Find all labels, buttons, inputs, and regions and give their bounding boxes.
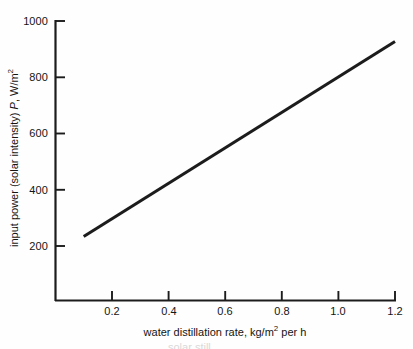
cropped-caption-text: solar still (168, 341, 406, 349)
x-tick-label-0-6: 0.6 (217, 305, 233, 317)
y-tick-label-1000: 1000 (0, 15, 48, 27)
y-axis-title-symbol: P (8, 102, 20, 109)
y-axis-title: input power (solar intensity) P, W/m2 (8, 69, 20, 247)
y-tick-marks (56, 21, 65, 246)
x-tick-label-1-2: 1.2 (387, 305, 403, 317)
x-axis-title-suffix: per h (278, 326, 306, 338)
y-axis-title-prefix: input power (solar intensity) (8, 109, 20, 247)
x-tick-label-0-2: 0.2 (104, 305, 120, 317)
figure-container: 1000 800 600 400 200 0.2 0.4 0.6 0.8 1.0… (0, 0, 413, 349)
y-axis-title-suffix: , W/m (8, 73, 20, 102)
data-series-line (84, 42, 395, 237)
x-tick-label-1-0: 1.0 (330, 305, 346, 317)
x-tick-label-0-4: 0.4 (161, 305, 177, 317)
chart-canvas (0, 0, 413, 349)
x-axis-title: water distillation rate, kg/m2 per h (144, 326, 307, 338)
x-tick-label-0-8: 0.8 (274, 305, 290, 317)
y-axis-title-exponent: 2 (6, 69, 15, 73)
x-tick-marks (112, 291, 395, 300)
plot-area: 1000 800 600 400 200 0.2 0.4 0.6 0.8 1.0… (0, 0, 413, 349)
x-axis-title-prefix: water distillation rate, kg/m (144, 326, 274, 338)
